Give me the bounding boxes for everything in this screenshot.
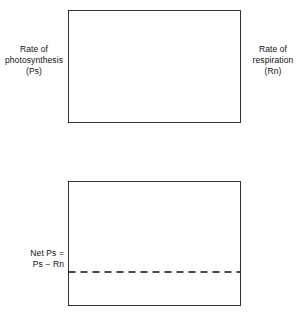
top-chart-frame <box>69 11 241 123</box>
top-chart <box>0 0 301 160</box>
bottom-chart-frame <box>69 182 241 306</box>
photosynthesis-respiration-figure: Rate of photosynthesis (Ps) Rate of resp… <box>0 0 301 319</box>
bottom-chart <box>0 160 301 319</box>
